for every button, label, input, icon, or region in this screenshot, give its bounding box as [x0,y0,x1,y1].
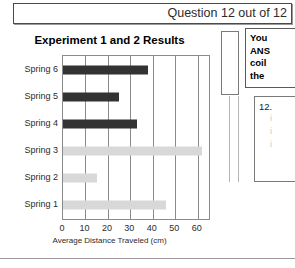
chart-plot-area [62,55,210,220]
gridline [85,56,86,219]
chart-bar [63,201,166,210]
instruction-line: the [250,70,295,83]
chart-bar [63,65,148,74]
instruction-line: You [250,32,295,45]
bottom-divider [0,258,295,259]
gridline [198,56,199,219]
category-label: Spring 5 [0,91,58,101]
chart-title: Experiment 1 and 2 Results [0,34,219,46]
instruction-line: ANS [250,45,295,58]
category-label: Spring 1 [0,199,58,209]
gridline [153,56,154,219]
gridline [108,56,109,219]
x-tick-label: 60 [192,223,202,233]
chart-bar [63,174,97,183]
instructions-panel: YouANScoilthe [245,28,295,88]
gridline [130,56,131,219]
chart-bar [63,119,137,128]
category-label: Spring 2 [0,172,58,182]
category-label: Spring 4 [0,118,58,128]
x-tick-label: 20 [102,223,112,233]
page-title: Question 12 out of 12 [167,6,287,20]
x-tick-label: 30 [124,223,134,233]
x-axis-label: Average Distance Traveled (cm) [0,236,219,245]
instruction-line: coil [250,57,295,70]
x-tick-label: 10 [79,223,89,233]
x-tick-label: 0 [59,223,64,233]
question-sub-line: i [270,138,295,151]
answer-strip [221,31,239,95]
gridline [175,56,176,219]
chart-bar [63,147,202,156]
question-sub-line: i [270,112,295,125]
panel-edge-stub [229,96,239,182]
chart-panel: Experiment 1 and 2 Results Average Dista… [0,28,219,256]
chart-bar [63,92,119,101]
x-tick-label: 40 [147,223,157,233]
question-header-bar: Question 12 out of 12 [13,3,292,24]
question-panel: 12. iii [254,96,295,182]
x-tick-label: 50 [169,223,179,233]
category-label: Spring 3 [0,145,58,155]
question-number: 12. [259,101,295,112]
category-label: Spring 6 [0,64,58,74]
question-sub-line: i [270,125,295,138]
